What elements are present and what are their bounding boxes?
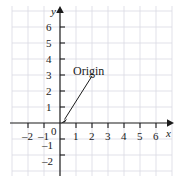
figure-background — [0, 0, 176, 183]
x-axis-label: x — [166, 128, 171, 139]
x-tick-label-6: 6 — [153, 131, 159, 142]
x-tick-label-5: 5 — [137, 131, 143, 142]
x-tick-label-minus-1: –1 — [38, 131, 49, 142]
y-tick-label-2: 2 — [46, 86, 52, 97]
origin-annotation-label: Origin — [73, 65, 104, 77]
y-tick-label-5: 5 — [46, 38, 52, 49]
plot-canvas — [0, 0, 176, 183]
y-tick-label-1: 1 — [46, 102, 52, 113]
x-tick-label-minus-2: –2 — [22, 131, 33, 142]
y-axis-label: y — [51, 6, 56, 17]
y-tick-label-6: 6 — [46, 22, 52, 33]
x-tick-label-3: 3 — [105, 131, 111, 142]
coordinate-plane-figure: 6 5 4 3 2 1 –1 –2 –2 –1 0 1 2 3 4 5 6 y … — [0, 0, 176, 183]
x-tick-label-1: 1 — [73, 131, 79, 142]
x-tick-label-2: 2 — [89, 131, 95, 142]
y-tick-label-minus-2: –2 — [42, 156, 53, 167]
x-tick-label-zero: 0 — [51, 126, 57, 137]
y-tick-label-3: 3 — [46, 70, 52, 81]
x-tick-label-4: 4 — [121, 131, 127, 142]
y-tick-label-4: 4 — [46, 54, 52, 65]
